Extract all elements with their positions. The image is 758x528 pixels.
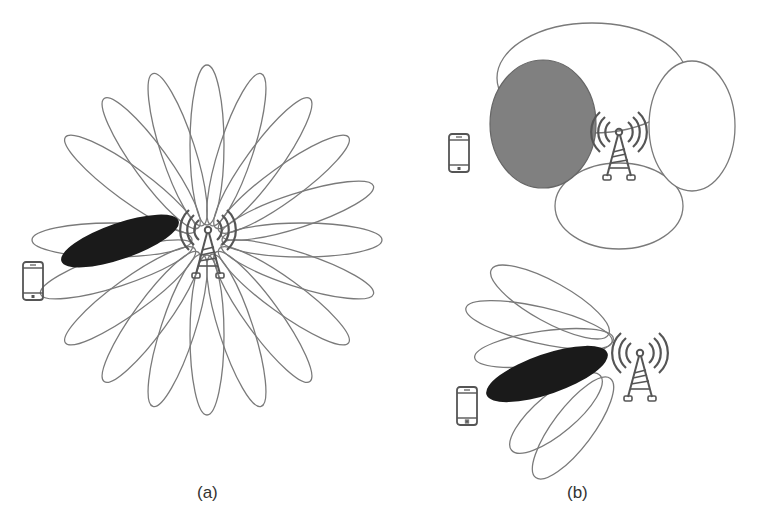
smartphone-icon	[457, 387, 477, 425]
wide-beam-lobe-right	[649, 61, 735, 191]
beam-lobe	[209, 123, 358, 245]
active-wide-beam	[490, 60, 596, 188]
beam-lobe	[482, 252, 619, 352]
caption-b: (b)	[567, 483, 588, 503]
beam-lobe	[202, 88, 324, 237]
beam-lobe	[209, 235, 358, 357]
smartphone-icon	[449, 134, 469, 172]
panel-b-bottom	[457, 252, 668, 490]
panel-a	[23, 65, 382, 415]
cell-tower-icon	[612, 333, 668, 401]
caption-a: (a)	[197, 483, 218, 503]
panel-b-top	[449, 23, 735, 249]
beam-lobe	[202, 242, 324, 391]
beamforming-diagram	[0, 0, 758, 528]
beam-lobe	[90, 242, 212, 391]
